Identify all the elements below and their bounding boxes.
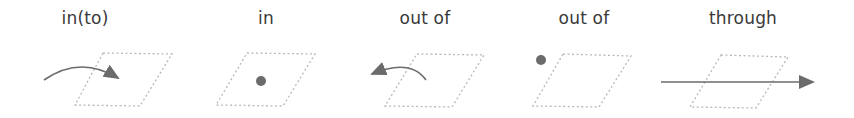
plane-icon <box>75 53 172 106</box>
panel-out-of-motion <box>372 54 484 107</box>
plane-icon <box>385 54 484 107</box>
curved-arrow-into-icon <box>44 67 118 80</box>
diagram-canvas <box>0 0 854 118</box>
dot-inside-icon <box>256 76 266 86</box>
plane-icon <box>533 54 631 107</box>
curved-arrow-out-icon <box>372 67 426 80</box>
panel-in <box>216 53 315 106</box>
panel-out-of-static <box>533 54 631 107</box>
panel-into <box>44 53 172 106</box>
panel-through <box>661 55 813 108</box>
dot-outside-icon <box>536 55 546 65</box>
